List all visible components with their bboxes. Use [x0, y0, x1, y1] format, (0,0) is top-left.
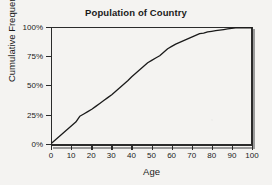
cumulative-frequency-line	[52, 28, 252, 143]
chart-figure: Population of Country 0% 25% 50% 75% 100…	[0, 0, 272, 185]
series-layer	[0, 0, 272, 185]
